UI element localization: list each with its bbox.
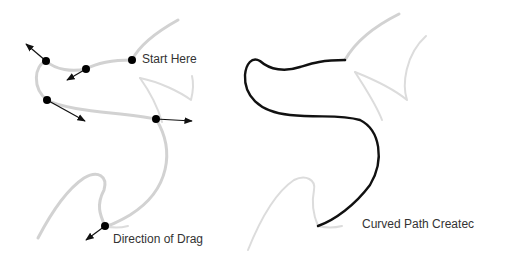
right-guide-sketch <box>248 14 426 250</box>
start-here-label: Start Here <box>142 52 197 66</box>
anchor-point-start <box>128 56 136 64</box>
drag-direction-arrows <box>26 44 192 240</box>
curved-path-created-label: Curved Path Createc <box>362 217 474 231</box>
anchor-point <box>43 96 51 104</box>
anchor-point <box>42 57 50 65</box>
anchor-point <box>82 65 90 73</box>
anchor-point <box>152 115 160 123</box>
anchor-point <box>101 222 109 230</box>
direction-of-drag-label: Direction of Drag <box>113 232 203 246</box>
